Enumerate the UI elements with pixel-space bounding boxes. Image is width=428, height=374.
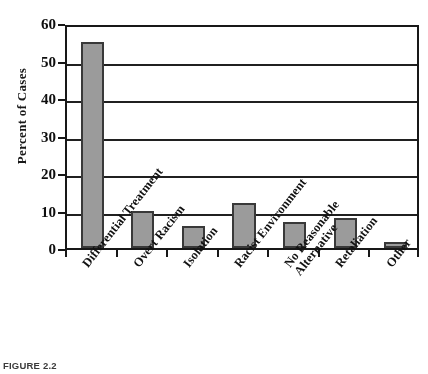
y-axis-tick-label: 60	[24, 17, 56, 32]
bar	[81, 42, 104, 248]
y-axis-tick-mark	[58, 62, 65, 64]
figure-bar-chart: Percent of Cases 0102030405060 Different…	[0, 0, 428, 374]
y-axis-tick-mark	[58, 174, 65, 176]
y-axis-tick-label: 30	[24, 130, 56, 145]
y-axis-tick-label: 40	[24, 92, 56, 107]
y-axis-tick-mark	[58, 24, 65, 26]
y-axis-tick-label: 10	[24, 205, 56, 220]
y-axis-tick-mark	[58, 212, 65, 214]
y-axis-tick-mark	[58, 137, 65, 139]
y-axis-tick-label: 50	[24, 55, 56, 70]
y-axis-tick-mark	[58, 99, 65, 101]
x-axis-category-labels: Differential TreatmentOvert RacismIsolat…	[0, 250, 428, 374]
figure-caption: FIGURE 2.2	[3, 360, 57, 371]
y-axis-tick-label: 20	[24, 167, 56, 182]
